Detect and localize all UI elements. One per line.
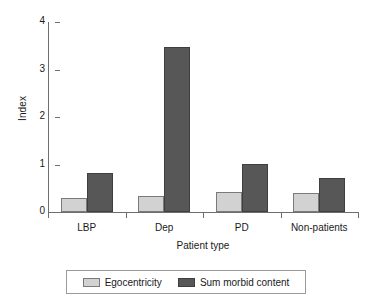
x-axis-tick-mark: [358, 213, 359, 218]
y-axis-tick-mark: [55, 22, 60, 23]
legend-label: Sum morbid content: [200, 277, 290, 288]
x-axis-category-label: Non-patients: [269, 222, 369, 233]
legend-swatch: [178, 278, 195, 287]
x-axis-title: Patient type: [48, 240, 358, 251]
x-axis-tick-mark: [203, 213, 204, 218]
y-axis-tick-label: 0: [23, 205, 45, 216]
bar-pd-egocentricity: [216, 192, 242, 212]
legend-item: Sum morbid content: [178, 277, 290, 288]
y-axis-tick: 3: [18, 70, 54, 71]
bar-non-patients-sum-morbid-content: [319, 178, 345, 212]
y-axis-tick: 2: [18, 117, 54, 118]
y-axis-tick: 1: [18, 165, 54, 166]
y-axis-tick-label: 4: [23, 15, 45, 26]
plot-area: 01234 LBPDepPDNon-patients: [48, 22, 358, 212]
bar-pd-sum-morbid-content: [242, 164, 268, 212]
legend-swatch: [83, 278, 100, 287]
bar-lbp-egocentricity: [61, 198, 87, 212]
x-axis-tick-mark: [126, 213, 127, 218]
bar-lbp-sum-morbid-content: [87, 173, 113, 212]
y-axis-tick-mark: [55, 212, 60, 213]
y-axis-tick: 4: [18, 22, 54, 23]
bar-dep-egocentricity: [138, 196, 164, 212]
legend-label: Egocentricity: [105, 277, 162, 288]
y-axis-tick-label: 1: [23, 158, 45, 169]
x-axis-tick-mark: [48, 213, 49, 218]
chart-legend: EgocentricitySum morbid content: [66, 270, 306, 294]
bar-dep-sum-morbid-content: [164, 47, 190, 212]
y-axis-tick-mark: [55, 117, 60, 118]
y-axis-tick-mark: [55, 165, 60, 166]
y-axis-tick-label: 3: [23, 63, 45, 74]
bar-chart-figure: Index 01234 LBPDepPDNon-patients Patient…: [0, 0, 372, 304]
legend-item: Egocentricity: [83, 277, 162, 288]
y-axis-title: Index: [17, 79, 28, 139]
y-axis-tick-label: 2: [23, 110, 45, 121]
y-axis-tick-mark: [55, 70, 60, 71]
x-axis-tick-mark: [281, 213, 282, 218]
bar-non-patients-egocentricity: [293, 193, 319, 212]
